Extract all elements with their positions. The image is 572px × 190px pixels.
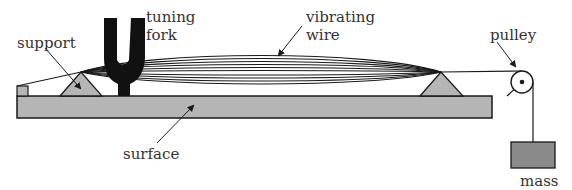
tuning-fork-label-line2: fork <box>146 26 178 44</box>
support-arrow <box>45 48 80 88</box>
pulley <box>507 71 533 96</box>
vibrating-wire-diagram: tuning fork vibrating wire support pulle… <box>0 0 572 190</box>
vibrating-wire-label-line2: wire <box>306 26 340 44</box>
tuning-fork-label-line1: tuning <box>146 8 196 26</box>
clamp-block <box>17 86 28 96</box>
mass-block <box>511 142 555 168</box>
support-label: support <box>17 34 76 52</box>
right-support <box>420 72 463 96</box>
mass-label: mass <box>520 172 559 190</box>
vibrating-wire-label-line1: vibrating <box>305 8 375 26</box>
wire-to-pulley <box>441 71 522 72</box>
tuning-fork <box>104 18 145 96</box>
pulley-arrow <box>497 42 515 66</box>
vibrating-wire-arrow <box>279 26 302 55</box>
pulley-label: pulley <box>490 26 537 44</box>
surface-label: surface <box>123 145 179 163</box>
surface-bar <box>17 96 492 118</box>
